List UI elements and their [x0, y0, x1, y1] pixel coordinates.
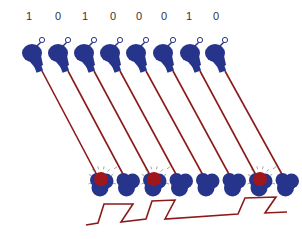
bit-label: 0 — [110, 10, 116, 22]
glow-ray — [108, 169, 110, 171]
wire — [173, 71, 231, 177]
glow-ray — [269, 175, 272, 176]
transmitter-bulbs — [22, 37, 228, 72]
wire — [120, 71, 178, 177]
transmitter-bulb-icon — [100, 37, 123, 72]
transmitter-bulb-icon — [48, 37, 71, 72]
receiver-bulb-icon — [276, 173, 300, 197]
glow-ray — [248, 175, 251, 176]
transmitter-bulb-icon — [126, 37, 149, 72]
wire — [225, 71, 284, 177]
receiver-bulb-icon — [170, 173, 194, 197]
wires — [42, 71, 284, 177]
wire — [200, 71, 257, 177]
glow-ray — [89, 175, 92, 176]
receiver-bulbs — [89, 166, 300, 196]
wire — [68, 71, 125, 177]
glow-ray — [103, 166, 104, 169]
wire — [42, 71, 98, 177]
glow-ray — [163, 175, 166, 176]
receiver-bulb-icon — [223, 173, 247, 197]
serial-transmission-diagram: 10100010 — [0, 0, 302, 239]
glow-ray — [110, 175, 113, 176]
bit-label: 0 — [55, 10, 61, 22]
glow-ray — [98, 166, 99, 169]
glow-ray — [151, 166, 152, 169]
signal-waveform — [86, 197, 287, 225]
glow-ray — [161, 169, 163, 171]
receiver-bulb-lit-icon — [248, 166, 277, 196]
receiver-bulb-icon — [117, 173, 141, 197]
glow-ray — [257, 166, 258, 169]
glow-ray — [156, 166, 157, 169]
transmitter-bulb-icon — [153, 37, 176, 72]
bit-labels: 10100010 — [26, 10, 219, 22]
transmitter-bulb-icon — [180, 37, 203, 72]
bit-label: 1 — [82, 10, 88, 22]
bit-label: 1 — [26, 10, 32, 22]
receiver-bulb-lit-icon — [142, 166, 171, 196]
bit-label: 1 — [186, 10, 192, 22]
receiver-bulb-icon — [196, 173, 220, 197]
transmitter-bulb-icon — [22, 37, 45, 72]
wire — [146, 71, 204, 177]
transmitter-bulb-icon — [74, 37, 97, 72]
glow-ray — [267, 169, 269, 171]
glow-ray — [262, 166, 263, 169]
bit-label: 0 — [161, 10, 167, 22]
bit-label: 0 — [213, 10, 219, 22]
receiver-bulb-lit-icon — [89, 166, 118, 196]
transmitter-bulb-icon — [205, 37, 228, 72]
wire — [94, 71, 151, 177]
bit-label: 0 — [136, 10, 142, 22]
glow-ray — [142, 175, 145, 176]
